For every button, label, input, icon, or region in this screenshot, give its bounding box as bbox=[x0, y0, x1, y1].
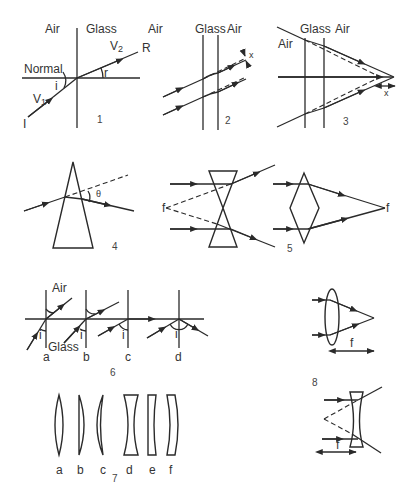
panel-8-focal-length: f f 8 bbox=[312, 289, 382, 453]
panel-number: 7 bbox=[112, 473, 118, 484]
panel-number: 8 bbox=[312, 377, 318, 388]
label-lens-c: c bbox=[100, 463, 106, 477]
panel-1-refraction: Air Glass Normal i r V1 V2 I R 1 bbox=[22, 22, 151, 131]
panel-2-glass-slab: Air Glass Air x 2 bbox=[148, 22, 254, 130]
label-lens-e: e bbox=[149, 463, 156, 477]
label-air-right: Air bbox=[335, 22, 350, 36]
panel-7-lens-types: a b c d e f 7 bbox=[55, 395, 178, 484]
label-glass: Glass bbox=[195, 22, 226, 36]
label-v1: V1 bbox=[33, 92, 46, 107]
label-angle-i-d: i bbox=[175, 327, 178, 341]
panel-6-critical-angle: Air Glass i i i i a b c d 6 bbox=[25, 281, 208, 378]
label-case-c: c bbox=[125, 350, 131, 364]
label-focal-top: f bbox=[350, 336, 354, 350]
panel-number: 4 bbox=[112, 241, 118, 252]
label-refracted-R: R bbox=[142, 41, 151, 55]
label-case-b: b bbox=[83, 350, 90, 364]
label-glass: Glass bbox=[86, 22, 117, 36]
panel-5-lenses: f f 5 bbox=[162, 165, 390, 254]
label-shift-x: x bbox=[249, 50, 254, 60]
label-deviation: θ bbox=[96, 189, 101, 199]
label-glass: Glass bbox=[48, 340, 79, 354]
label-case-d: d bbox=[175, 350, 182, 364]
label-lens-b: b bbox=[77, 463, 84, 477]
label-shift-x: x bbox=[384, 88, 389, 98]
diverging-lens-icon bbox=[209, 171, 237, 247]
label-air: Air bbox=[45, 22, 60, 36]
label-air-left: Air bbox=[278, 37, 293, 51]
label-angle-r: r bbox=[104, 66, 108, 80]
label-focal-bottom: f bbox=[336, 438, 340, 452]
label-lens-d: d bbox=[126, 463, 133, 477]
label-angle-i-b: i bbox=[80, 328, 83, 342]
panel-number: 5 bbox=[287, 243, 293, 254]
label-air: Air bbox=[52, 281, 67, 295]
panel-number: 3 bbox=[343, 116, 349, 127]
label-focus-right: f bbox=[386, 201, 390, 215]
panel-number: 6 bbox=[110, 367, 116, 378]
label-glass: Glass bbox=[300, 22, 331, 36]
label-angle-i-c: i bbox=[122, 328, 125, 342]
optics-figure: Air Glass Normal i r V1 V2 I R 1 Air Gla… bbox=[0, 0, 410, 486]
label-air-left: Air bbox=[148, 22, 163, 36]
label-focus-left: f bbox=[162, 201, 166, 215]
label-lens-a: a bbox=[56, 463, 63, 477]
label-air-right: Air bbox=[227, 22, 242, 36]
panel-4-prism: θ 4 bbox=[24, 162, 134, 252]
label-lens-f: f bbox=[169, 463, 173, 477]
label-case-a: a bbox=[43, 350, 50, 364]
label-incident-I: I bbox=[23, 117, 26, 131]
label-normal: Normal bbox=[24, 62, 63, 76]
label-angle-i: i bbox=[55, 79, 58, 93]
label-angle-i-a: i bbox=[39, 328, 42, 342]
panel-number: 2 bbox=[225, 115, 231, 126]
panel-3-focus-shift: Air Glass Air x 3 bbox=[277, 22, 395, 128]
convex-lens-icon bbox=[325, 289, 339, 345]
label-v2: V2 bbox=[110, 39, 123, 54]
panel-number: 1 bbox=[97, 114, 103, 125]
